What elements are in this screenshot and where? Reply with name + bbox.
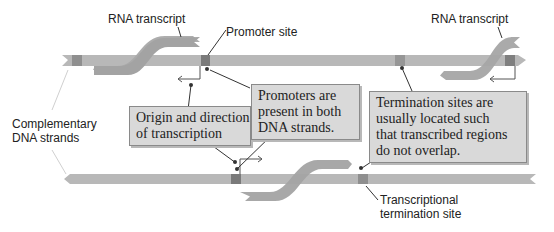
promoters-both-strands-callout: Promoters are present in both DNA strand… — [251, 84, 360, 140]
termination-sites-callout: Termination sites are usually located su… — [369, 91, 527, 163]
termination-callout-line4: do not overlap. — [376, 143, 520, 159]
promoters-line3: DNA strands. — [258, 120, 353, 136]
rna-transcript-left-label: RNA transcript — [108, 12, 185, 26]
complementary-line2: DNA strands — [12, 131, 97, 145]
transcription-diagram: RNA transcript Promoter site RNA transcr… — [0, 0, 554, 232]
termination-callout-line1: Termination sites are — [376, 95, 520, 111]
origin-line1: Origin and direction — [136, 110, 244, 126]
top-right-promoter-site — [505, 55, 515, 66]
origin-direction-callout: Origin and direction of transcription — [129, 106, 251, 146]
transcriptional-termination-site-label: Transcriptional termination site — [380, 193, 461, 221]
complementary-dna-strands-label: Complementary DNA strands — [12, 117, 97, 145]
termination-callout-line2: usually located such — [376, 111, 520, 127]
promoters-line2: present in both — [258, 104, 353, 120]
promoters-line1: Promoters are — [258, 88, 353, 104]
top-left-site — [72, 55, 82, 66]
top-termination-site — [395, 55, 405, 66]
complementary-line1: Complementary — [12, 117, 97, 131]
termination-callout-line3: that transcribed regions — [376, 127, 520, 143]
origin-line2: of transcription — [136, 126, 244, 142]
termination-line2: termination site — [380, 207, 461, 221]
rna-transcript-right-label: RNA transcript — [431, 12, 508, 26]
top-promoter-site — [201, 55, 210, 66]
bottom-termination-site — [358, 174, 368, 184]
promoter-site-label: Promoter site — [226, 25, 297, 39]
bottom-promoter-site — [231, 174, 241, 184]
termination-line1: Transcriptional — [380, 193, 461, 207]
